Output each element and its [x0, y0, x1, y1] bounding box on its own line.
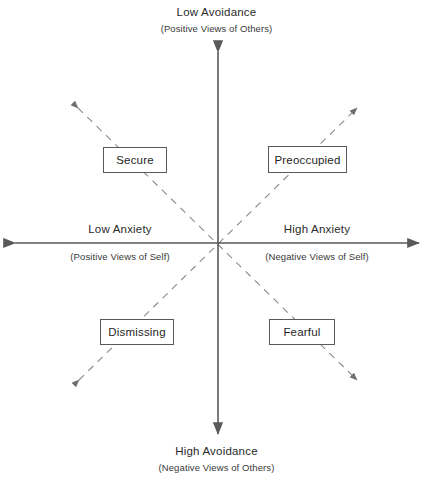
quadrant-label-fearful: Fearful	[283, 326, 320, 338]
quadrant-label-secure: Secure	[116, 154, 154, 166]
quadrant-box-preoccupied: Preoccupied	[268, 146, 347, 173]
axis-label-top: Low Avoidance (Positive Views of Others)	[0, 4, 433, 37]
quadrant-label-preoccupied: Preoccupied	[274, 154, 340, 166]
axis-label-bottom-main: High Avoidance	[0, 443, 433, 460]
quadrant-label-dismissing: Dismissing	[108, 326, 166, 338]
axis-label-left-main: Low Anxiety	[40, 221, 200, 238]
axis-label-right-main: High Anxiety	[237, 221, 397, 238]
quadrant-box-fearful: Fearful	[269, 319, 335, 345]
axis-label-right-sub: (Negative Views of Self)	[237, 249, 397, 265]
diagram-canvas	[0, 0, 433, 484]
axis-label-bottom-sub: (Negative Views of Others)	[0, 460, 433, 476]
axis-label-bottom: High Avoidance (Negative Views of Others…	[0, 443, 433, 476]
axis-label-top-main: Low Avoidance	[0, 4, 433, 21]
quadrant-box-dismissing: Dismissing	[100, 319, 174, 345]
attachment-style-diagram: Low Avoidance (Positive Views of Others)…	[0, 0, 433, 484]
quadrant-box-secure: Secure	[103, 147, 167, 173]
axis-label-top-sub: (Positive Views of Others)	[0, 21, 433, 37]
axis-label-left-sub: (Positive Views of Self)	[40, 249, 200, 265]
